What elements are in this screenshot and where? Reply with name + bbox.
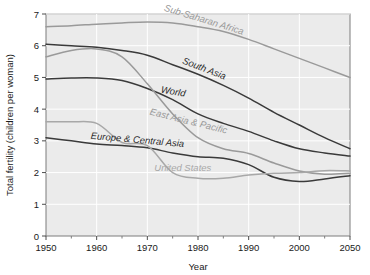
x-tick-label: 1980 xyxy=(187,242,208,253)
chart-canvas: 01234567 1950196019701980199020002050 Su… xyxy=(0,0,370,275)
y-axis: 01234567 xyxy=(34,9,46,242)
y-tick-label: 7 xyxy=(34,9,39,20)
x-axis: 1950196019701980199020002050 xyxy=(35,236,360,253)
x-tick-label: 1950 xyxy=(35,242,56,253)
y-tick-label: 6 xyxy=(34,40,39,51)
x-tick-label: 2000 xyxy=(289,242,310,253)
x-axis-title: Year xyxy=(188,261,207,272)
y-tick-label: 2 xyxy=(34,167,39,178)
y-tick-label: 3 xyxy=(34,135,39,146)
y-axis-title: Total fertility (children per woman) xyxy=(4,54,15,196)
y-tick-label: 1 xyxy=(34,199,39,210)
y-tick-label: 5 xyxy=(34,72,39,83)
y-tick-label: 0 xyxy=(34,231,39,242)
x-tick-label: 2050 xyxy=(339,242,360,253)
fertility-line-chart: 01234567 1950196019701980199020002050 Su… xyxy=(0,0,370,275)
x-tick-label: 1990 xyxy=(238,242,259,253)
series-label: United States xyxy=(154,162,211,173)
y-tick-label: 4 xyxy=(34,104,39,115)
x-tick-label: 1960 xyxy=(86,242,107,253)
x-tick-label: 1970 xyxy=(137,242,158,253)
